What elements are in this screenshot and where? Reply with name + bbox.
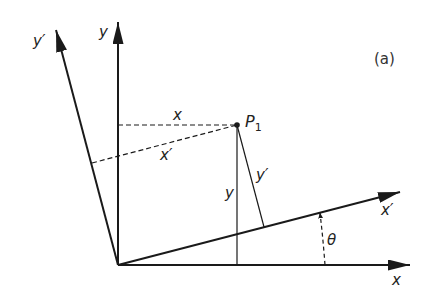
y-axis-label: y	[98, 23, 109, 41]
y-prime-axis-label: y′	[32, 32, 46, 50]
rotated-axes-diagram: y y′ x x′ x x′ y y′ P1 θ (a)	[0, 0, 427, 296]
theta-label: θ	[327, 231, 336, 249]
x-component-label: x	[172, 106, 182, 124]
y-prime-axis	[56, 30, 118, 265]
x-prime-component-label: x′	[159, 146, 173, 164]
y-component-label: y	[224, 184, 235, 202]
theta-angle-arc	[320, 213, 325, 265]
y-prime-component-label: y′	[255, 166, 269, 184]
point-p1-marker	[234, 122, 240, 128]
x-axis-label: x	[391, 271, 401, 289]
panel-label: (a)	[374, 50, 395, 68]
x-prime-axis-label: x′	[380, 201, 394, 219]
point-p1-label: P1	[245, 112, 262, 134]
x-prime-axis	[118, 192, 400, 265]
